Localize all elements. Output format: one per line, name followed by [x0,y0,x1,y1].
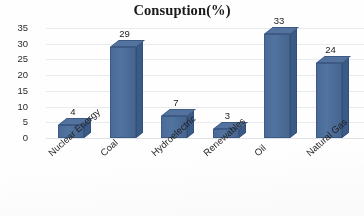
y-axis-tick-label: 0 [2,132,28,143]
bar-chart: Consuption(%) 429733324 35302520151050 N… [0,0,364,216]
bar-front-face [110,47,136,138]
bar-side-face [136,41,143,138]
chart-3d-walls [36,28,46,146]
y-axis-tick-label: 20 [2,69,28,80]
bar [264,34,290,138]
gridline [46,59,364,60]
y-axis-tick-label: 15 [2,85,28,96]
gridline [46,28,364,29]
y-axis-tick-label: 30 [2,38,28,49]
bar-side-face [290,29,297,138]
bar-value-label: 33 [259,15,299,26]
y-axis-tick-label: 10 [2,101,28,112]
y-axis-tick-label: 25 [2,53,28,64]
bar-value-label: 29 [105,28,145,39]
y-axis-tick-label: 35 [2,22,28,33]
chart-title: Consuption(%) [0,2,364,19]
bar [110,47,136,138]
y-axis-tick-label: 5 [2,116,28,127]
bar-value-label: 24 [311,44,351,55]
bar-value-label: 7 [156,97,196,108]
bar-front-face [264,34,290,138]
